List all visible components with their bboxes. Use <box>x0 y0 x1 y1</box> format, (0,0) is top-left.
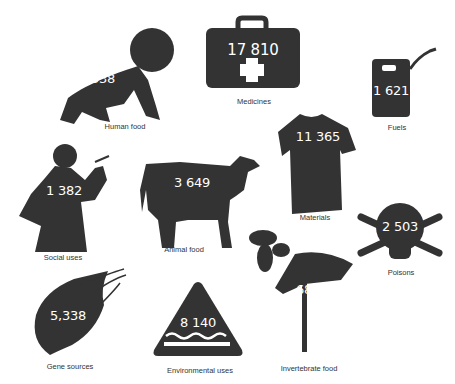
value-poisons: 2 503 <box>382 219 418 234</box>
label-medicines: Medicines <box>237 97 271 106</box>
label-poisons: Poisons <box>388 268 415 277</box>
label-human-food: Human food <box>105 122 146 131</box>
label-environmental-uses: Environmental uses <box>167 366 233 375</box>
value-materials: 11 365 <box>296 129 340 144</box>
label-invertebrate-food: Invertebrate food <box>281 364 338 373</box>
label-social-uses: Social uses <box>44 253 82 262</box>
item-gene-sources: 5,338 Gene sources <box>20 265 130 375</box>
item-medicines: 17 810 Medicines <box>200 10 300 110</box>
value-medicines: 17 810 <box>227 41 278 59</box>
label-fuels: Fuels <box>388 123 406 132</box>
value-human-food: 5 538 <box>79 71 115 86</box>
item-poisons: 2 503 Poisons <box>355 195 450 285</box>
value-fuels: 1 621 <box>373 83 409 98</box>
label-materials: Materials <box>300 213 330 222</box>
item-fuels: 1 621 Fuels <box>370 45 450 135</box>
label-animal-food: Animal food <box>164 245 204 254</box>
item-environmental-uses: 8 140 Environmental uses <box>150 280 250 380</box>
item-human-food: 5 538 Human food <box>60 20 200 135</box>
value-invertebrate-food: 683 <box>296 282 320 297</box>
value-gene-sources: 5,338 <box>50 308 86 323</box>
value-environmental-uses: 8 140 <box>180 315 216 330</box>
item-invertebrate-food: 683 Invertebrate food <box>245 228 355 378</box>
skull-crossbones-icon <box>355 195 450 275</box>
value-animal-food: 3 649 <box>174 175 210 190</box>
item-social-uses: 1 382 Social uses <box>15 140 125 265</box>
label-gene-sources: Gene sources <box>47 362 94 371</box>
value-social-uses: 1 382 <box>46 183 82 198</box>
